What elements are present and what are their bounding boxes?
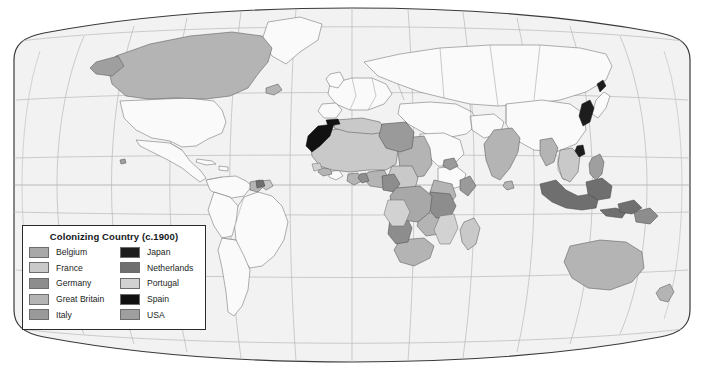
legend-item-japan: Japan — [120, 245, 205, 260]
legend-swatch-italy — [29, 309, 49, 320]
legend-swatch-spain — [120, 294, 140, 305]
legend-label-great-britain: Great Britain — [56, 294, 104, 304]
legend-label-japan: Japan — [147, 247, 170, 257]
legend-item-france: France — [29, 261, 114, 276]
legend-item-portugal: Portugal — [120, 276, 205, 291]
legend-swatch-belgium — [29, 247, 49, 258]
legend-label-spain: Spain — [147, 294, 169, 304]
legend-label-portugal: Portugal — [147, 278, 179, 288]
legend-label-belgium: Belgium — [56, 247, 87, 257]
legend-label-usa: USA — [147, 310, 165, 320]
legend-label-italy: Italy — [56, 310, 72, 320]
legend-column-left: Belgium France Germany Great Britain Ita… — [29, 245, 114, 322]
legend-item-netherlands: Netherlands — [120, 261, 205, 276]
legend-swatch-great-britain — [29, 294, 49, 305]
region-hawaii — [120, 159, 126, 164]
legend-swatch-netherlands — [120, 262, 140, 273]
region-hispaniola — [219, 166, 228, 171]
legend-column-right: Japan Netherlands Portugal Spain USA — [120, 245, 205, 322]
legend-title: Colonizing Country (c.1900) — [23, 231, 205, 242]
legend-swatch-germany — [29, 278, 49, 289]
legend-item-italy: Italy — [29, 307, 114, 322]
legend-item-usa: USA — [120, 307, 205, 322]
legend-swatch-japan — [120, 247, 140, 258]
legend-label-germany: Germany — [56, 278, 91, 288]
legend-item-spain: Spain — [120, 292, 205, 307]
legend-label-netherlands: Netherlands — [147, 263, 193, 273]
legend-swatch-france — [29, 262, 49, 273]
legend-item-great-britain: Great Britain — [29, 292, 114, 307]
legend-item-germany: Germany — [29, 276, 114, 291]
legend-columns: Belgium France Germany Great Britain Ita… — [23, 245, 205, 322]
legend-swatch-usa — [120, 309, 140, 320]
legend-label-france: France — [56, 263, 83, 273]
world-map-figure: Colonizing Country (c.1900) Belgium Fran… — [0, 0, 705, 370]
legend-swatch-portugal — [120, 278, 140, 289]
legend-item-belgium: Belgium — [29, 245, 114, 260]
map-legend: Colonizing Country (c.1900) Belgium Fran… — [22, 225, 206, 330]
